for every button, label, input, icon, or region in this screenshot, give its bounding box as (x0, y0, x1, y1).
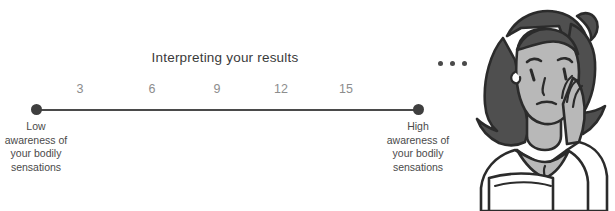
anchor-low-line-1: Low (0, 120, 96, 134)
scale-tick-12: 12 (261, 82, 301, 96)
scale-axis-line (36, 109, 418, 111)
thinking-woman-illustration (455, 0, 615, 211)
anchor-low-line-2: awareness of (0, 134, 96, 148)
page-title: Interpreting your results (0, 50, 450, 65)
scale-anchor-low: Low awareness of your bodily sensations (0, 120, 96, 174)
scale-tick-15: 15 (326, 82, 366, 96)
scale-endpoint-low-dot (31, 104, 42, 115)
scale-tick-9: 9 (197, 82, 237, 96)
interpreting-results-figure: Interpreting your results 3 6 9 12 15 Lo… (0, 0, 615, 211)
anchor-low-line-3: your bodily (0, 147, 96, 161)
anchor-low-line-4: sensations (0, 161, 96, 175)
scale-endpoint-high-dot (413, 104, 424, 115)
thought-dot-1 (438, 61, 443, 66)
scale-tick-6: 6 (132, 82, 172, 96)
scale-tick-3: 3 (60, 82, 100, 96)
